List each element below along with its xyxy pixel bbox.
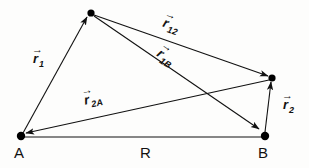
vector-r2-line <box>265 82 271 132</box>
vector-label-r1: →r1 <box>33 52 43 65</box>
vector-label-r2: →r2 <box>283 98 293 111</box>
baseline-label-r: R <box>140 145 151 160</box>
vector-arrow-accent-icon: → <box>32 44 42 55</box>
vector-arrow-accent-icon: → <box>80 84 92 97</box>
origin-point-a <box>17 132 25 140</box>
diagram-canvas <box>0 0 309 168</box>
vector-r12-line <box>94 15 268 76</box>
point-label-a: A <box>14 145 25 160</box>
vector-arrow-accent-icon: → <box>282 90 292 101</box>
vector-subscript-r1: 1 <box>39 59 44 69</box>
particle-point-1 <box>87 9 94 16</box>
vector-symbol-r2: →r <box>283 98 288 111</box>
vector-subscript-r2: 2 <box>289 105 294 115</box>
vector-diagram-figure: A B R →r1 →r12 →r1B →r2A →r2 <box>0 0 309 168</box>
vector-symbol-r1: →r <box>33 52 38 65</box>
vector-r1-line <box>23 17 87 133</box>
particle-point-2 <box>268 74 275 81</box>
point-label-b: B <box>258 145 269 160</box>
vector-label-r2A: →r2A <box>83 90 102 106</box>
vector-r2A-line <box>26 80 269 133</box>
origin-point-b <box>261 132 269 140</box>
